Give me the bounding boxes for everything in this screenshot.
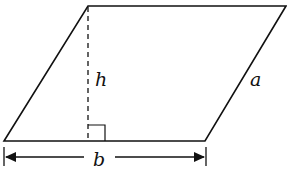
height-label: h [95, 68, 107, 90]
side-label: a [250, 68, 261, 90]
right-angle-marker [88, 125, 105, 141]
parallelogram-outline [4, 6, 286, 141]
arrowhead-right-icon [194, 152, 205, 162]
arrowhead-left-icon [5, 152, 16, 162]
parallelogram-diagram: h a b [0, 0, 287, 176]
base-label: b [93, 148, 105, 170]
